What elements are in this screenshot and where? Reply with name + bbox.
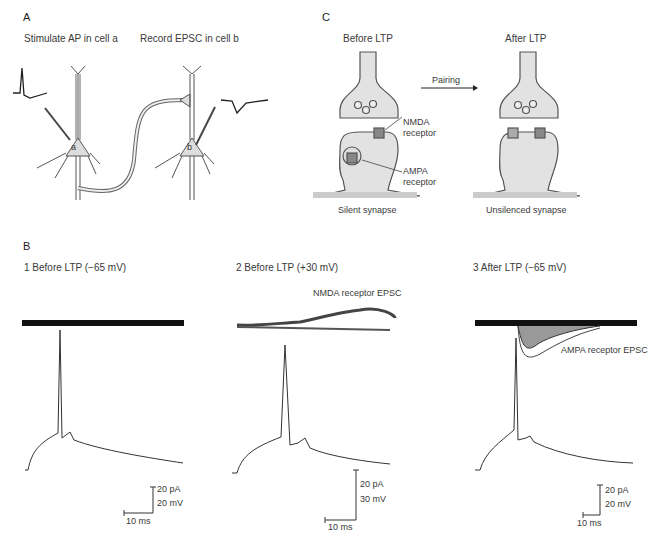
stimulate-label: Stimulate AP in cell a <box>24 33 118 44</box>
trace-3-title: 3 After LTP (−65 mV) <box>473 262 566 273</box>
ampa-label: AMPA <box>403 166 428 176</box>
silent-synapse-caption: Silent synapse <box>338 205 397 215</box>
trace-3-scale-time: 10 ms <box>577 518 602 528</box>
nmda-label: NMDA <box>403 117 430 127</box>
trace-1-title: 1 Before LTP (−65 mV) <box>24 262 126 273</box>
after-ltp-title: After LTP <box>505 33 547 44</box>
ampa-label-2: receptor <box>403 177 436 187</box>
trace-3-scale-voltage: 20 mV <box>605 499 631 509</box>
pairing-label: Pairing <box>432 75 460 85</box>
panel-a-letter: A <box>23 11 30 23</box>
before-ltp-title: Before LTP <box>343 33 393 44</box>
nmda-epsc-label: NMDA receptor EPSC <box>313 288 402 298</box>
trace-1-scale-time: 10 ms <box>126 516 151 526</box>
trace-2-scale-time: 10 ms <box>328 522 353 532</box>
record-label: Record EPSC in cell b <box>140 33 239 44</box>
trace-2-scale-voltage: 30 mV <box>360 494 386 504</box>
panel-b-letter: B <box>23 240 30 252</box>
unsilenced-synapse-caption: Unsilenced synapse <box>486 205 567 215</box>
trace-3-scale-current: 20 pA <box>605 485 629 495</box>
ampa-epsc-label: AMPA receptor EPSC <box>561 345 648 355</box>
epsc-icon <box>221 100 268 113</box>
trace-2 <box>232 309 395 523</box>
unsilenced-synapse <box>473 52 580 198</box>
cell-b-label: b <box>187 142 192 152</box>
trace-1-scale-current: 20 pA <box>157 484 181 494</box>
trace-1-scale-voltage: 20 mV <box>157 498 183 508</box>
neuron-a <box>37 66 100 200</box>
panel-c-letter: C <box>322 11 330 23</box>
ap-icon <box>13 68 47 98</box>
neuron-b <box>155 66 215 200</box>
trace-2-title: 2 Before LTP (+30 mV) <box>236 262 338 273</box>
nmda-label-2: receptor <box>403 128 436 138</box>
trace-2-scale-current: 20 pA <box>360 479 384 489</box>
cell-a-label: a <box>71 142 76 152</box>
